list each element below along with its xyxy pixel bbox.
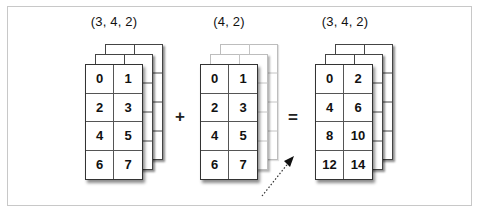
broadcast-arrow-icon [0,0,480,214]
